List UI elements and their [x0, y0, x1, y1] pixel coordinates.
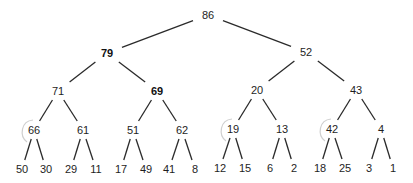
- tree-node: 49: [139, 163, 153, 175]
- tree-edge: [372, 138, 378, 159]
- tree-node: 6: [266, 162, 274, 174]
- tree-edge: [70, 62, 96, 82]
- tree-edge: [269, 61, 295, 81]
- tree-edge: [139, 100, 152, 121]
- tree-node: 1: [389, 162, 397, 174]
- tree-edge: [64, 100, 77, 121]
- tree-edge: [185, 139, 192, 160]
- tree-node: 41: [162, 163, 176, 175]
- tree-edge: [136, 139, 143, 160]
- tree-node: 8: [191, 163, 199, 175]
- tree-edge: [119, 62, 145, 82]
- tree-edge: [172, 139, 179, 160]
- tree-node: 86: [201, 9, 215, 21]
- tree-edge: [338, 99, 351, 120]
- tree-node: 11: [89, 163, 102, 175]
- tree-edge: [285, 138, 291, 159]
- tree-node: 42: [325, 123, 339, 135]
- tree-edge: [124, 139, 130, 160]
- tree-edge: [163, 100, 176, 121]
- tree-edge: [25, 139, 31, 160]
- tree-node: 51: [126, 124, 140, 136]
- tree-edge: [86, 139, 93, 160]
- tree-node: 29: [64, 163, 78, 175]
- tree-node: 79: [100, 47, 114, 59]
- tree-node: 17: [114, 163, 128, 175]
- tree-node: 15: [238, 162, 252, 174]
- tree-node: 66: [27, 124, 41, 136]
- tree-node: 18: [313, 162, 327, 174]
- tree-edge: [318, 61, 344, 81]
- tree-edge: [239, 99, 252, 120]
- tree-edge: [223, 138, 230, 159]
- tree-node: 69: [150, 85, 164, 97]
- tree-edge: [273, 138, 279, 159]
- tree-node: 25: [338, 162, 352, 174]
- tree-edge: [122, 21, 193, 48]
- binary-tree-diagram: 8679527169204366615162191342450302911174…: [0, 0, 413, 183]
- tree-edge: [37, 139, 43, 160]
- tree-edge: [40, 100, 53, 121]
- tree-edge: [74, 139, 80, 160]
- tree-edge: [236, 138, 242, 159]
- tree-node: 43: [349, 84, 363, 96]
- tree-node: 62: [175, 124, 189, 136]
- tree-node: 61: [76, 124, 90, 136]
- tree-node: 50: [15, 163, 29, 175]
- tree-node: 2: [290, 162, 298, 174]
- tree-edge: [335, 138, 342, 159]
- tree-edge: [323, 138, 329, 159]
- tree-edge: [223, 21, 291, 47]
- tree-node: 52: [299, 46, 313, 58]
- tree-edge: [362, 99, 375, 120]
- tree-node: 20: [250, 84, 264, 96]
- tree-node: 13: [275, 123, 289, 135]
- tree-node: 4: [377, 123, 385, 135]
- tree-edge: [384, 138, 390, 159]
- tree-node: 19: [226, 123, 240, 135]
- tree-edge: [263, 99, 276, 120]
- tree-node: 71: [51, 85, 65, 97]
- tree-node: 12: [213, 162, 227, 174]
- tree-node: 30: [39, 163, 53, 175]
- tree-node: 3: [365, 162, 373, 174]
